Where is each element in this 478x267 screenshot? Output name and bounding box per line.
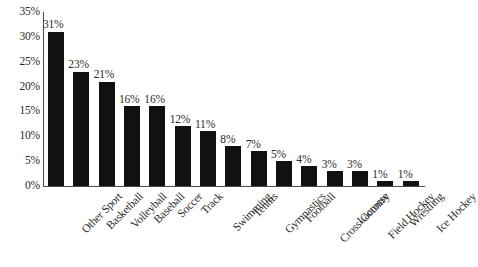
bar-group: 8% <box>221 12 246 186</box>
bar <box>251 151 267 186</box>
bar <box>327 171 343 186</box>
x-axis-category-label: Track <box>198 190 224 216</box>
bar <box>225 146 241 186</box>
y-axis-tick-label: 15% <box>2 105 40 117</box>
y-axis-tick-label: 30% <box>2 31 40 43</box>
y-axis-tick-label: 35% <box>2 6 40 18</box>
bar-value-label: 3% <box>347 159 362 171</box>
bar-value-label: 5% <box>271 149 286 161</box>
bar <box>124 106 140 186</box>
bar-value-label: 8% <box>220 134 235 146</box>
bar <box>301 166 317 186</box>
bar-group: 3% <box>348 12 373 186</box>
bar-group: 31% <box>44 12 69 186</box>
bar <box>73 72 89 186</box>
bar-value-label: 23% <box>68 59 88 71</box>
bar-group: 1% <box>399 12 424 186</box>
y-axis-tick-labels: 35%30%25%20%15%10%5%0% <box>0 0 40 267</box>
bar-group: 4% <box>297 12 322 186</box>
bar-group: 3% <box>323 12 348 186</box>
bar-value-label: 4% <box>296 154 311 166</box>
bar <box>200 131 216 186</box>
bar-group: 7% <box>247 12 272 186</box>
bar <box>352 171 368 186</box>
bar-value-label: 3% <box>322 159 337 171</box>
plot-area: 31%23%21%16%16%12%11%8%7%5%4%3%3%1%1% <box>44 12 424 186</box>
y-axis-tick-label: 25% <box>2 56 40 68</box>
bar-value-label: 16% <box>144 94 164 106</box>
y-axis-tick-label: 10% <box>2 130 40 142</box>
bar <box>175 126 191 186</box>
bar-value-label: 7% <box>246 139 261 151</box>
bar-group: 1% <box>373 12 398 186</box>
bar <box>99 82 115 186</box>
x-axis-category-labels: Other SportBasketballVolleyballBaseballS… <box>44 186 424 267</box>
bar-value-label: 11% <box>195 119 215 131</box>
bar-value-label: 1% <box>372 169 387 181</box>
y-axis-tick-label: 20% <box>2 81 40 93</box>
bar-value-label: 16% <box>119 94 139 106</box>
bar-group: 12% <box>171 12 196 186</box>
bar-group: 23% <box>69 12 94 186</box>
bar-group: 21% <box>95 12 120 186</box>
bar-value-label: 12% <box>170 114 190 126</box>
bar <box>149 106 165 186</box>
bar-group: 5% <box>272 12 297 186</box>
bar-value-label: 1% <box>398 169 413 181</box>
bar <box>48 32 64 186</box>
bar <box>276 161 292 186</box>
y-axis-tick-label: 0% <box>2 180 40 192</box>
bar-group: 16% <box>120 12 145 186</box>
bar-value-label: 21% <box>94 69 114 81</box>
y-axis-tick-label: 5% <box>2 155 40 167</box>
bar-group: 16% <box>145 12 170 186</box>
bar-value-label: 31% <box>43 19 63 31</box>
bar-group: 11% <box>196 12 221 186</box>
x-axis-category-label: Lacrosse <box>354 190 390 226</box>
